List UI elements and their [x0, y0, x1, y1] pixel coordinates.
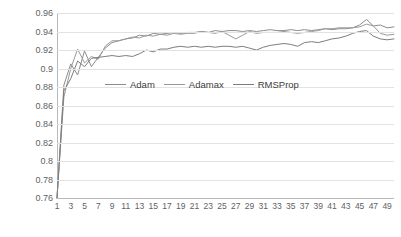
gridline [57, 198, 394, 199]
y-axis-tick-label: 0.86 [5, 101, 53, 111]
x-axis-tick-label: 9 [110, 201, 115, 211]
gridline [57, 32, 394, 33]
y-axis-tick-label: 0.94 [5, 27, 53, 37]
legend-item-label: RMSProp [258, 79, 299, 90]
y-axis-tick-label: 0.8 [5, 156, 53, 166]
x-axis-tick-label: 21 [190, 201, 199, 211]
y-axis-labels: 0.960.940.920.90.880.860.840.820.80.780.… [0, 0, 53, 237]
plot-area [57, 13, 394, 198]
x-axis-tick-label: 27 [231, 201, 240, 211]
x-axis-tick-label: 19 [176, 201, 185, 211]
y-axis-tick-label: 0.82 [5, 138, 53, 148]
gridline [57, 106, 394, 107]
x-axis-tick-label: 43 [341, 201, 350, 211]
y-axis-tick-label: 0.92 [5, 45, 53, 55]
y-axis-tick-label: 0.76 [5, 193, 53, 203]
x-axis-tick-label: 25 [217, 201, 226, 211]
gridline [57, 13, 394, 14]
x-axis-tick-label: 15 [149, 201, 158, 211]
x-axis-tick-label: 41 [327, 201, 336, 211]
x-axis-tick-label: 7 [96, 201, 101, 211]
legend-line-icon [105, 84, 126, 85]
legend-item-adamax: Adamax [164, 79, 224, 90]
x-axis-tick-label: 31 [259, 201, 268, 211]
chart-legend: Adam Adamax RMSProp [105, 79, 299, 90]
x-axis-tick-label: 47 [369, 201, 378, 211]
y-axis-tick-label: 0.78 [5, 175, 53, 185]
line-chart: 0.960.940.920.90.880.860.840.820.80.780.… [0, 0, 401, 237]
y-axis-tick-label: 0.96 [5, 8, 53, 18]
gridline [57, 50, 394, 51]
x-axis-tick-label: 5 [82, 201, 87, 211]
x-axis-tick-label: 49 [382, 201, 391, 211]
legend-item-adam: Adam [105, 79, 155, 90]
y-axis-tick-label: 0.84 [5, 119, 53, 129]
x-axis-tick-label: 29 [245, 201, 254, 211]
legend-item-label: Adamax [189, 79, 224, 90]
x-axis-tick-label: 37 [300, 201, 309, 211]
series-line-rmsprop [57, 31, 394, 198]
gridline [57, 124, 394, 125]
x-axis-tick-label: 11 [121, 201, 130, 211]
x-axis-tick-label: 1 [55, 201, 60, 211]
legend-line-icon [164, 84, 185, 85]
x-axis-tick-label: 33 [272, 201, 281, 211]
gridline [57, 69, 394, 70]
y-axis-tick-label: 0.9 [5, 64, 53, 74]
legend-item-rmsprop: RMSProp [233, 79, 299, 90]
legend-item-label: Adam [130, 79, 155, 90]
x-axis-labels: 1357911131517192123252729313335373941434… [57, 201, 394, 221]
x-axis-tick-label: 23 [204, 201, 213, 211]
legend-line-icon [233, 84, 254, 85]
x-axis-tick-label: 35 [286, 201, 295, 211]
gridline [57, 180, 394, 181]
gridline [57, 143, 394, 144]
gridline [57, 161, 394, 162]
y-axis-tick-label: 0.88 [5, 82, 53, 92]
x-axis-tick-label: 3 [68, 201, 73, 211]
x-axis-tick-label: 45 [355, 201, 364, 211]
x-axis-tick-label: 13 [135, 201, 144, 211]
x-axis-tick-label: 17 [162, 201, 171, 211]
x-axis-tick-label: 39 [314, 201, 323, 211]
